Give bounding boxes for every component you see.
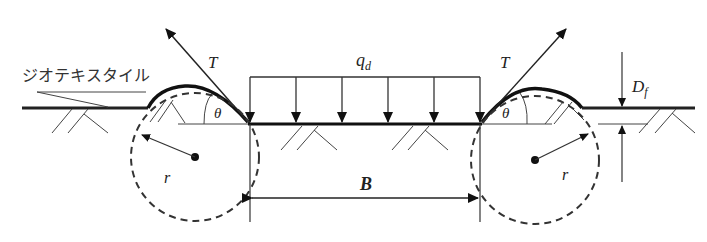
tension-label-right: T (500, 53, 511, 72)
ground-hatch-footing (281, 126, 448, 150)
angle-label-right: θ (502, 105, 510, 121)
depth-label: Df (631, 77, 649, 99)
geotextile-foundation-diagram: ジオテキスタイル T T qd θ θ r r B Df (0, 0, 707, 242)
geotextile-leader (37, 92, 146, 107)
load-label: qd (356, 50, 372, 73)
left-angle-arc (204, 94, 212, 124)
left-radius-arrow (142, 135, 195, 157)
geotextile-label: ジオテキスタイル (22, 66, 150, 85)
tension-label-left: T (208, 53, 219, 72)
distributed-load (250, 77, 480, 122)
diagram-canvas: ジオテキスタイル T T qd θ θ r r B Df (0, 0, 707, 242)
right-radius-arrow (535, 134, 588, 160)
ground-hatch-right (639, 109, 695, 133)
ground-hatch-mound-left (150, 100, 185, 123)
radius-label-right: r (562, 166, 569, 183)
width-label: B (359, 174, 372, 194)
left-tension-arrow (166, 29, 248, 122)
right-tension-arrow (482, 29, 566, 122)
ground-hatch-left (52, 109, 108, 133)
angle-label-left: θ (214, 105, 222, 121)
radius-label-left: r (164, 169, 171, 186)
